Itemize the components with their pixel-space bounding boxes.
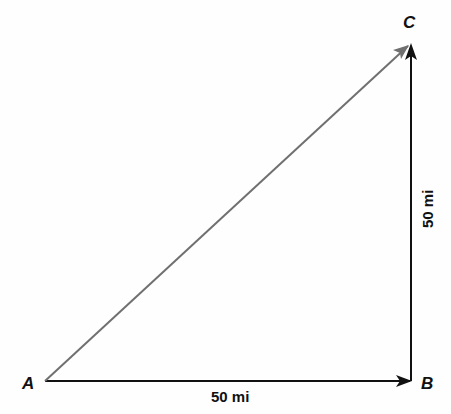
vector-bc bbox=[405, 43, 417, 381]
vector-ac-resultant bbox=[45, 45, 409, 381]
point-label-b: B bbox=[421, 374, 433, 393]
distance-label-bc: 50 mi bbox=[419, 190, 436, 228]
point-label-c: C bbox=[403, 13, 416, 32]
point-label-a: A bbox=[21, 374, 34, 393]
vector-diagram: A B C 50 mi 50 mi bbox=[0, 0, 451, 414]
vector-ab bbox=[45, 375, 412, 387]
distance-label-ab: 50 mi bbox=[211, 388, 249, 405]
